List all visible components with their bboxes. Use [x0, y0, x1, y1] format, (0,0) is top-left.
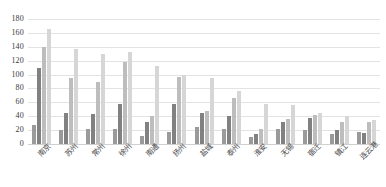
- bar: [101, 54, 105, 144]
- bar-group: [109, 19, 136, 144]
- bar: [32, 125, 36, 144]
- y-tick-label: 140: [11, 43, 24, 51]
- bar-group: [299, 19, 326, 144]
- bar: [237, 91, 241, 144]
- bar: [155, 66, 159, 144]
- x-label-cell: 苏州: [55, 146, 82, 187]
- y-tick-label: 80: [16, 84, 24, 92]
- bar: [254, 134, 258, 144]
- bar: [205, 111, 209, 144]
- bar: [64, 113, 68, 144]
- bar: [276, 129, 280, 144]
- bar: [281, 122, 285, 144]
- x-label-cell: 宿迁: [299, 146, 326, 187]
- x-label-cell: 南京: [28, 146, 55, 187]
- x-label-cell: 连云港: [353, 146, 380, 187]
- y-tick-label: 60: [16, 98, 24, 106]
- bar: [91, 114, 95, 144]
- x-label-cell: 镇江: [326, 146, 353, 187]
- bar: [330, 134, 334, 144]
- bar: [177, 77, 181, 144]
- x-label-cell: 南通: [136, 146, 163, 187]
- bar-group: [136, 19, 163, 144]
- y-tick-label: 180: [11, 15, 24, 23]
- bar-group: [326, 19, 353, 144]
- bar: [182, 75, 186, 144]
- bar: [195, 127, 199, 144]
- bar-group: [190, 19, 217, 144]
- bar-group: [245, 19, 272, 144]
- bar: [318, 113, 322, 144]
- bar: [345, 116, 349, 144]
- bar: [74, 49, 78, 144]
- x-axis-label: 徐州: [118, 143, 133, 158]
- x-label-cell: 徐州: [109, 146, 136, 187]
- x-axis-label: 镇江: [334, 143, 349, 158]
- x-axis-label: 扬州: [172, 143, 187, 158]
- y-axis: 180160140120100806040200: [0, 19, 24, 144]
- bar-group: [353, 19, 380, 144]
- bar: [308, 118, 312, 144]
- y-tick-label: 20: [16, 126, 24, 134]
- bar: [264, 104, 268, 144]
- y-tick-label: 120: [11, 57, 24, 65]
- bar-groups: [28, 19, 380, 144]
- bar: [145, 122, 149, 144]
- x-label-cell: 扬州: [163, 146, 190, 187]
- bar: [232, 98, 236, 144]
- y-tick-label: 160: [11, 29, 24, 37]
- bar: [118, 104, 122, 144]
- bar: [140, 136, 144, 144]
- x-axis-label: 宿迁: [307, 143, 322, 158]
- bar: [291, 105, 295, 144]
- x-label-cell: 淮安: [245, 146, 272, 187]
- bar: [59, 130, 63, 144]
- bar: [210, 78, 214, 144]
- bar: [128, 52, 132, 144]
- x-axis-label: 淮安: [253, 143, 268, 158]
- bar: [357, 132, 361, 145]
- x-label-cell: 无锡: [272, 146, 299, 187]
- bar-group: [55, 19, 82, 144]
- bar: [172, 104, 176, 144]
- bar: [167, 132, 171, 145]
- y-tick-label: 40: [16, 112, 24, 120]
- bar: [123, 62, 127, 144]
- x-label-cell: 常州: [82, 146, 109, 187]
- x-axis-label: 无锡: [280, 143, 295, 158]
- bar: [96, 82, 100, 145]
- bar: [313, 115, 317, 144]
- bar: [340, 122, 344, 144]
- bar-chart: 180160140120100806040200 南京苏州常州徐州南通扬州盐城泰…: [0, 0, 386, 187]
- bar: [47, 29, 51, 144]
- bar-group: [218, 19, 245, 144]
- x-axis-label: 苏州: [64, 143, 79, 158]
- bar: [86, 129, 90, 144]
- x-axis-label: 盐城: [199, 143, 214, 158]
- bar: [37, 68, 41, 144]
- bar: [222, 129, 226, 144]
- x-label-cell: 泰州: [218, 146, 245, 187]
- bar: [335, 130, 339, 144]
- bar: [150, 116, 154, 144]
- bar-group: [82, 19, 109, 144]
- bar: [362, 133, 366, 144]
- y-tick-label: 100: [11, 71, 24, 79]
- bar-group: [28, 19, 55, 144]
- bar: [227, 116, 231, 144]
- x-axis-label: 南通: [145, 143, 160, 158]
- bar: [42, 47, 46, 144]
- bar: [249, 137, 253, 144]
- x-axis-label: 常州: [91, 143, 106, 158]
- bar-group: [272, 19, 299, 144]
- x-axis-label: 南京: [37, 143, 52, 158]
- x-label-cell: 盐城: [190, 146, 217, 187]
- y-tick-label: 0: [20, 140, 24, 148]
- bar-group: [163, 19, 190, 144]
- x-axis-label: 泰州: [226, 143, 241, 158]
- bar: [303, 130, 307, 144]
- x-axis-labels: 南京苏州常州徐州南通扬州盐城泰州淮安无锡宿迁镇江连云港: [28, 146, 380, 187]
- bar: [200, 113, 204, 144]
- bar: [286, 119, 290, 144]
- bar: [69, 78, 73, 144]
